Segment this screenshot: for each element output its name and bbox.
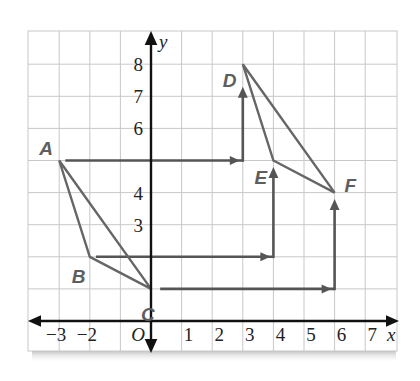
y-tick-label: 7	[134, 86, 144, 107]
y-tick-label: 4	[134, 183, 144, 204]
x-tick-label: 4	[276, 324, 286, 345]
point-label-F: F	[345, 175, 358, 196]
x-tick-label: −3	[46, 324, 66, 345]
y-tick-label: 6	[134, 118, 144, 139]
x-tick-label: 6	[337, 324, 347, 345]
x-tick-label: 2	[214, 324, 224, 345]
x-axis-label: x	[386, 324, 396, 345]
x-tick-label: 5	[306, 324, 316, 345]
point-label-C: C	[141, 304, 155, 325]
y-tick-label: 8	[134, 54, 144, 75]
origin-label: O	[131, 324, 145, 345]
point-label-B: B	[72, 266, 86, 287]
point-label-E: E	[254, 167, 268, 188]
x-tick-label: 3	[245, 324, 255, 345]
grid-shadow	[32, 351, 396, 363]
coordinate-plane-figure: −3−2123456787643Oxy ABCDEF	[0, 0, 420, 381]
point-label-A: A	[38, 138, 53, 159]
x-tick-label: 1	[184, 324, 194, 345]
x-tick-label: 7	[367, 324, 377, 345]
y-axis-label: y	[157, 31, 168, 52]
x-tick-label: −2	[77, 324, 97, 345]
point-label-D: D	[223, 70, 237, 91]
y-tick-label: 3	[134, 215, 144, 236]
